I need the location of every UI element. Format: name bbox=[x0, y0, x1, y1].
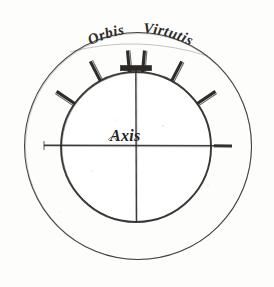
engraving-figure: Orbis Virtutis bbox=[0, 0, 274, 287]
axis-label: Axis bbox=[109, 127, 141, 144]
orbis-virtutis-diagram: Orbis Virtutis bbox=[0, 0, 274, 287]
pole-plate bbox=[121, 66, 152, 71]
axis-label-group: Axis bbox=[108, 127, 141, 144]
